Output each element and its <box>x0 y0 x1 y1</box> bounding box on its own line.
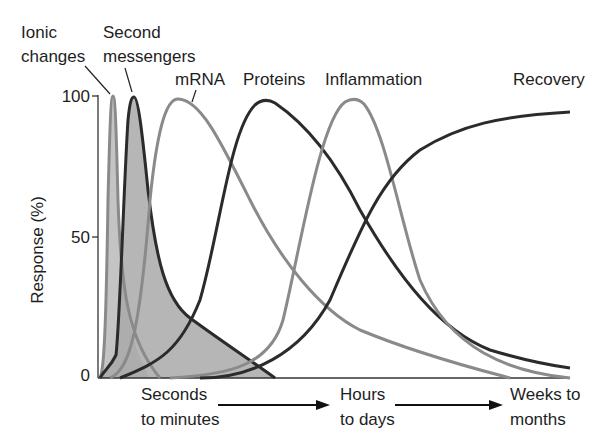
inflammation-curve <box>170 99 570 378</box>
chart-plot <box>0 0 613 446</box>
second-leader-line <box>125 68 132 92</box>
ionic-leader-line <box>85 66 110 94</box>
arrow-1-head-icon <box>316 400 330 410</box>
mrna-leader-line <box>192 90 196 102</box>
arrow-2-head-icon <box>489 400 503 410</box>
